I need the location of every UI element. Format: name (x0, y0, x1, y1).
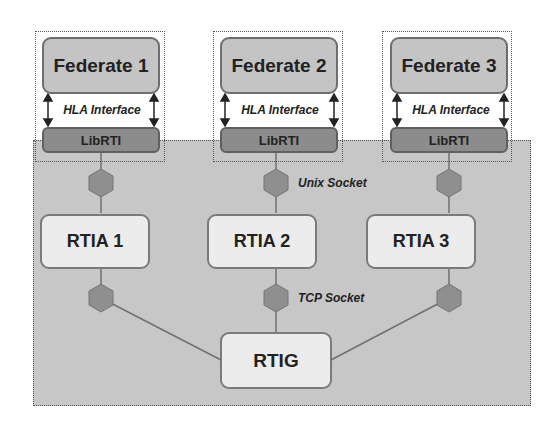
unix-socket-label: Unix Socket (298, 176, 367, 190)
socket-hexagon-tcp-1 (89, 284, 113, 312)
socket-hexagon-tcp-2 (264, 284, 288, 312)
hla-interface-label-3: HLA Interface (404, 95, 498, 125)
socket-hexagon-unix-3 (437, 169, 461, 197)
rtig-box: RTIG (220, 332, 332, 389)
rtia-1-box: RTIA 1 (40, 214, 150, 269)
rtia-2-box: RTIA 2 (207, 214, 317, 269)
hla-interface-label-1: HLA Interface (55, 95, 149, 125)
federate-1-box: Federate 1 (42, 37, 160, 94)
socket-hexagon-tcp-3 (437, 284, 461, 312)
librti-1-box: LibRTI (42, 127, 160, 153)
tcp-socket-label: TCP Socket (298, 291, 364, 305)
federate-3-box: Federate 3 (390, 37, 508, 94)
socket-hexagon-unix-1 (89, 169, 113, 197)
rtia-3-box: RTIA 3 (366, 214, 476, 269)
federate-2-box: Federate 2 (220, 37, 338, 94)
socket-hexagon-unix-2 (264, 169, 288, 197)
hla-interface-label-2: HLA Interface (233, 95, 327, 125)
librti-2-box: LibRTI (220, 127, 338, 153)
librti-3-box: LibRTI (390, 127, 508, 153)
